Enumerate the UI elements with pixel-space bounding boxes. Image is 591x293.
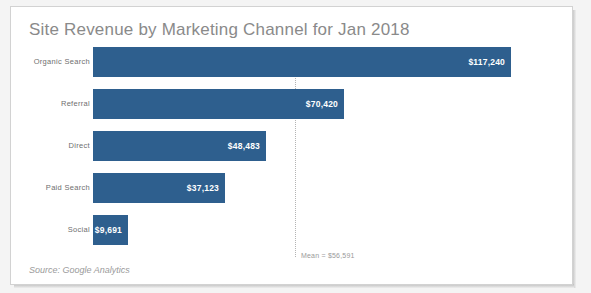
source-note: Source: Google Analytics	[29, 265, 130, 275]
mean-reference-label: Mean = $56,591	[301, 252, 355, 259]
bar-category-label: Direct	[69, 131, 90, 161]
bar-value-label: $70,420	[282, 89, 338, 119]
bar-value-label: $9,691	[66, 215, 122, 245]
chart-plot-area: Mean = $56,591 Organic Search$117,240Ref…	[11, 47, 572, 252]
screenshot-canvas: Site Revenue by Marketing Channel for Ja…	[0, 0, 591, 293]
bar-category-label: Organic Search	[34, 47, 90, 77]
chart-card: Site Revenue by Marketing Channel for Ja…	[10, 6, 573, 285]
bar-row: Paid Search$37,123	[11, 173, 572, 203]
bar-value-label: $117,240	[449, 47, 505, 77]
chart-title: Site Revenue by Marketing Channel for Ja…	[29, 20, 410, 40]
bar-category-label: Paid Search	[46, 173, 90, 203]
bar-row: Referral$70,420	[11, 89, 572, 119]
bar-row: Organic Search$117,240	[11, 47, 572, 77]
bar-value-label: $48,483	[204, 131, 260, 161]
bar-row: Social$9,691	[11, 215, 572, 245]
bar-category-label: Referral	[61, 89, 90, 119]
bar-row: Direct$48,483	[11, 131, 572, 161]
bar-value-label: $37,123	[163, 173, 219, 203]
